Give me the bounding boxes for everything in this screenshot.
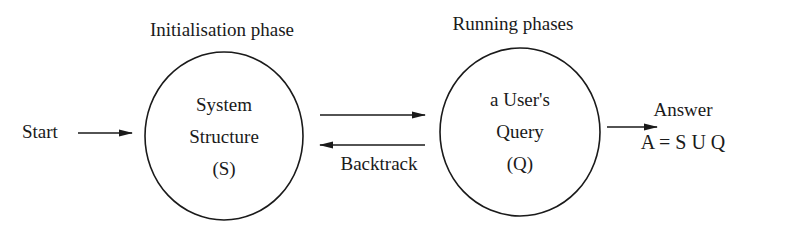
phase-diagram: Initialisation phase Running phases Star… — [0, 0, 788, 231]
system-line-1: System — [196, 94, 252, 115]
system-line-2: Structure — [189, 126, 259, 147]
start-label: Start — [22, 121, 59, 142]
system-line-3: (S) — [212, 158, 235, 180]
initialisation-phase-label: Initialisation phase — [150, 19, 294, 40]
query-line-3: (Q) — [507, 153, 533, 175]
backtrack-label: Backtrack — [340, 153, 418, 174]
query-line-2: Query — [496, 121, 544, 142]
running-phases-label: Running phases — [453, 13, 574, 34]
answer-label: Answer — [653, 99, 713, 120]
answer-formula: A = S U Q — [641, 131, 726, 153]
query-line-1: a User's — [490, 89, 550, 110]
